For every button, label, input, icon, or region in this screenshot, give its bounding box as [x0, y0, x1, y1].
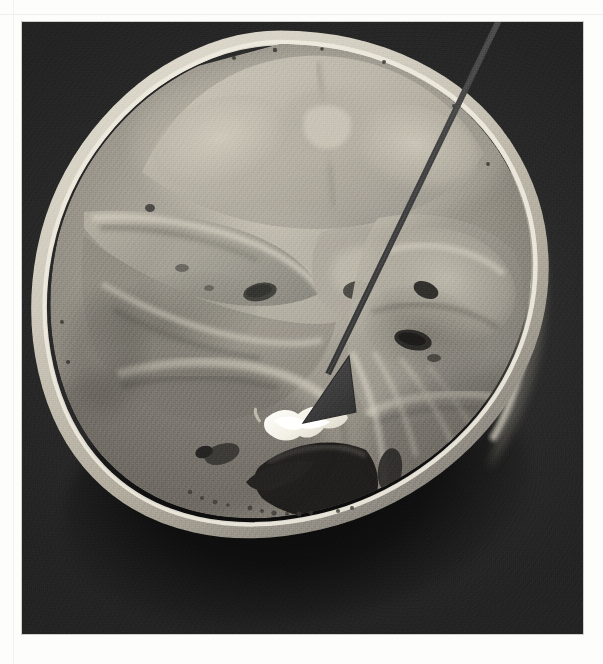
arrow-shaft	[328, 22, 499, 374]
anatomical-photograph	[22, 22, 583, 634]
scan-edge-left	[13, 0, 14, 664]
pointer-arrow	[22, 22, 583, 634]
scan-edge-top	[0, 14, 603, 15]
page-root: Interior of the base of the skull (crani…	[0, 0, 603, 664]
